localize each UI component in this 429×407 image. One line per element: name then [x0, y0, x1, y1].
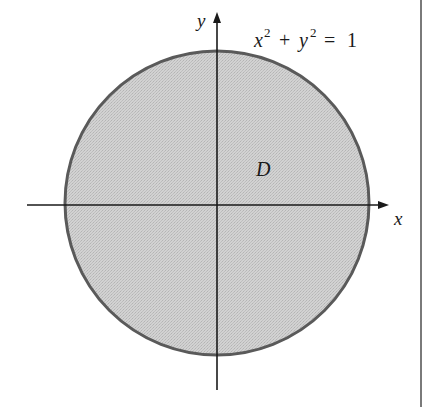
- y-axis-arrow-icon: [213, 12, 221, 23]
- diagram-svg: y x D x 2 + y 2 = 1: [0, 0, 429, 407]
- diagram-canvas: y x D x 2 + y 2 = 1: [0, 0, 429, 407]
- circle-equation-label: x 2 + y 2 = 1: [253, 25, 357, 52]
- svg-text:y: y: [297, 29, 308, 52]
- svg-text:2: 2: [310, 25, 317, 40]
- x-axis-arrow-icon: [378, 201, 389, 209]
- svg-text:+: +: [279, 29, 290, 51]
- svg-text:x: x: [253, 29, 263, 51]
- svg-text:2: 2: [264, 25, 271, 40]
- y-axis-label: y: [195, 10, 206, 31]
- region-label: D: [255, 158, 271, 180]
- x-axis-label: x: [393, 208, 403, 229]
- svg-text:1: 1: [347, 29, 357, 51]
- svg-text:=: =: [324, 29, 335, 51]
